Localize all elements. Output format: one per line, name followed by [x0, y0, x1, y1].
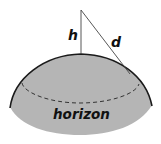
height-label: h	[68, 27, 78, 43]
horizon-distance-diagram: h d horizon	[0, 0, 161, 144]
horizon-label: horizon	[53, 106, 110, 122]
distance-label: d	[111, 34, 122, 50]
diagram-svg: h d horizon	[0, 0, 161, 144]
earth-surface	[10, 54, 152, 135]
